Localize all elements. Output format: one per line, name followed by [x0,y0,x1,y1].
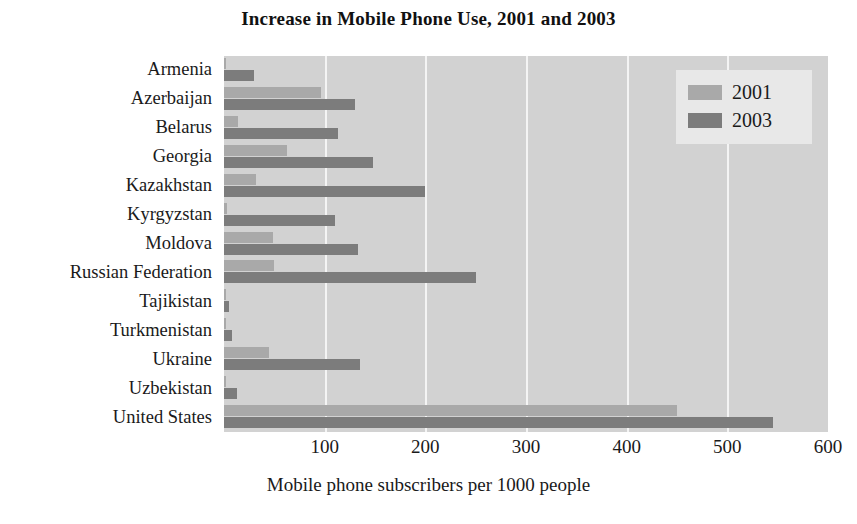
legend-label-2001: 2001 [732,81,772,104]
bar-kazakhstan-2003 [224,186,425,197]
bar-tajikistan-2003 [224,301,229,312]
bar-group [224,172,828,201]
legend-swatch-2003 [688,113,722,128]
legend-item-2001: 2001 [688,78,802,106]
chart-title: Increase in Mobile Phone Use, 2001 and 2… [0,8,857,30]
bar-belarus-2001 [224,116,238,127]
y-axis-label-belarus: Belarus [155,117,212,137]
y-axis-label-azerbaijan: Azerbaijan [131,88,212,108]
y-axis-label-tajikistan: Tajikistan [139,291,212,311]
x-axis-tick-labels: 100200300400500600 [0,436,857,466]
x-axis-tick-300: 300 [512,436,541,458]
bar-ukraine-2001 [224,347,269,358]
x-axis-tick-400: 400 [612,436,641,458]
bar-azerbaijan-2001 [224,87,321,98]
legend-item-2003: 2003 [688,106,802,134]
x-axis-tick-100: 100 [310,436,339,458]
bar-turkmenistan-2003 [224,330,232,341]
bar-group [224,143,828,172]
x-axis-tick-500: 500 [713,436,742,458]
x-axis-title: Mobile phone subscribers per 1000 people [0,474,857,496]
y-axis-label-turkmenistan: Turkmenistan [110,320,212,340]
bar-uzbekistan-2003 [224,388,237,399]
bar-russian-federation-2003 [224,272,476,283]
bar-armenia-2001 [224,58,226,69]
y-axis-label-armenia: Armenia [147,59,212,79]
x-axis-tick-200: 200 [411,436,440,458]
bar-kazakhstan-2001 [224,174,256,185]
y-axis-label-georgia: Georgia [153,146,212,166]
y-axis-label-uzbekistan: Uzbekistan [129,378,212,398]
bar-united-states-2001 [224,405,677,416]
bar-uzbekistan-2001 [224,376,226,387]
bar-kyrgyzstan-2001 [224,203,227,214]
bar-moldova-2003 [224,244,358,255]
bar-group [224,374,828,403]
bar-group [224,287,828,316]
bar-georgia-2001 [224,145,287,156]
x-axis-tick-600: 600 [814,436,843,458]
bar-kyrgyzstan-2003 [224,215,335,226]
bar-group [224,403,828,432]
bar-moldova-2001 [224,232,273,243]
bar-russian-federation-2001 [224,260,274,271]
bar-tajikistan-2001 [224,289,226,300]
legend: 20012003 [676,70,812,144]
bar-azerbaijan-2003 [224,99,355,110]
bar-group [224,258,828,287]
y-axis-category-labels: ArmeniaAzerbaijanBelarusGeorgiaKazakhsta… [0,56,218,432]
y-axis-label-russian-federation: Russian Federation [70,262,212,282]
bar-armenia-2003 [224,70,254,81]
bar-group [224,230,828,259]
bar-group [224,345,828,374]
bar-ukraine-2003 [224,359,360,370]
bar-chart: Increase in Mobile Phone Use, 2001 and 2… [0,0,857,524]
y-axis-label-kyrgyzstan: Kyrgyzstan [127,204,212,224]
legend-label-2003: 2003 [732,109,772,132]
y-axis-label-united-states: United States [113,407,212,427]
y-axis-label-moldova: Moldova [145,233,212,253]
bar-georgia-2003 [224,157,373,168]
bar-turkmenistan-2001 [224,318,226,329]
bar-group [224,316,828,345]
y-axis-label-kazakhstan: Kazakhstan [126,175,212,195]
bar-belarus-2003 [224,128,338,139]
y-axis-label-ukraine: Ukraine [152,349,212,369]
bar-group [224,201,828,230]
legend-swatch-2001 [688,85,722,100]
bar-united-states-2003 [224,417,773,428]
